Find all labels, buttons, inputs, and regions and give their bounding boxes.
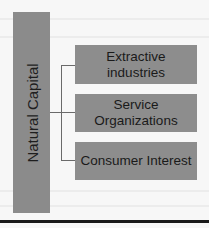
child-node-label: Consumer Interest [80,153,191,169]
child-node-consumer-interest: Consumer Interest [75,142,197,180]
connector-branch-1 [61,65,75,66]
connector-branch-2 [61,112,75,113]
child-node-extractive-industries: Extractive industries [75,45,197,84]
child-node-label: Extractive industries [96,49,176,81]
page-rule [0,220,209,223]
connector-branch-3 [61,160,75,161]
root-node-label: Natural Capital [23,63,40,162]
child-node-label: Service Organizations [86,97,186,129]
child-node-service-organizations: Service Organizations [75,94,197,132]
root-node-natural-capital: Natural Capital [13,12,50,213]
connector-trunk [50,112,61,113]
connector-vertical [61,65,62,161]
